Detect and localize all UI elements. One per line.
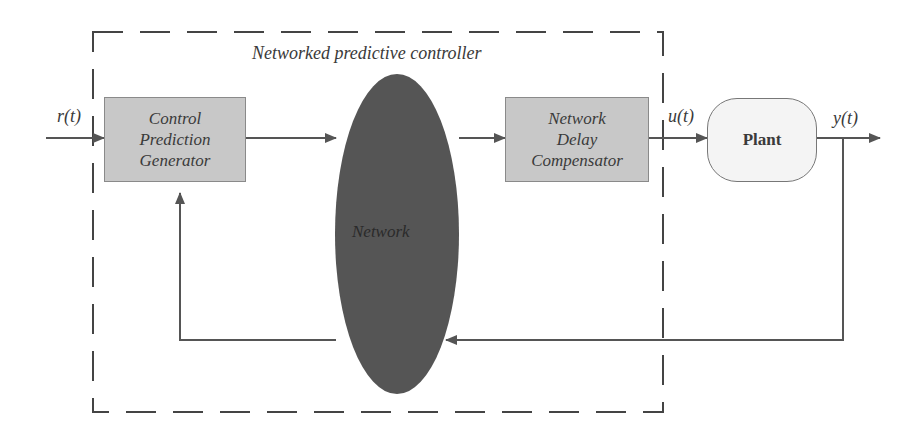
network-label: Network bbox=[352, 222, 410, 242]
ndc-line-1: Network bbox=[548, 108, 606, 129]
network-delay-compensator-block: Network Delay Compensator bbox=[505, 97, 649, 182]
diagram-lines bbox=[0, 0, 921, 430]
network-to-cpg-feedback bbox=[180, 193, 336, 340]
ndc-line-2: Delay bbox=[557, 129, 598, 150]
plant-label: Plant bbox=[743, 130, 782, 150]
control-prediction-generator-block: Control Prediction Generator bbox=[104, 97, 246, 182]
reference-signal-label: r(t) bbox=[57, 106, 81, 127]
cpg-line-1: Control bbox=[149, 108, 201, 129]
cpg-line-2: Prediction bbox=[139, 129, 210, 150]
plant-block: Plant bbox=[707, 98, 817, 182]
ndc-line-3: Compensator bbox=[531, 150, 623, 171]
output-signal-label: y(t) bbox=[833, 108, 858, 129]
controller-title: Networked predictive controller bbox=[252, 43, 482, 64]
cpg-line-3: Generator bbox=[140, 150, 211, 171]
block-diagram: Networked predictive controller r(t) u(t… bbox=[0, 0, 921, 430]
control-signal-label: u(t) bbox=[668, 106, 694, 127]
